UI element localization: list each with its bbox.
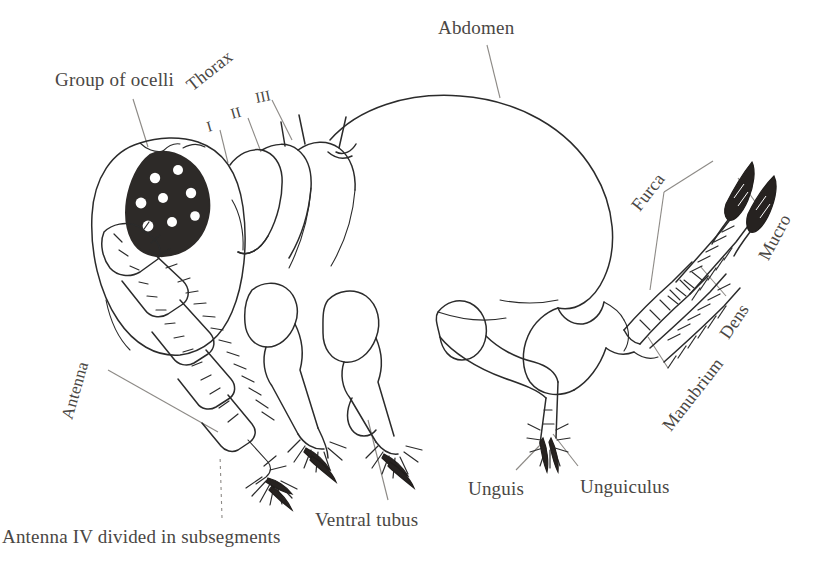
leg-2 [323,291,422,488]
label-thorax-segment-3: III [254,88,272,106]
ocellus [158,193,168,203]
ocelli-patch [126,152,209,256]
antenna [102,222,297,510]
figure-canvas: .ink { fill: none; stroke: #2b2b2b; stro… [0,0,835,561]
leader-thorax-1 [220,130,228,163]
ocellus [167,217,177,227]
leg-1 [245,283,346,482]
ocellus [150,173,160,183]
thorax [230,115,356,268]
leg-3 [436,301,570,472]
label-group-of-ocelli: Group of ocelli [55,70,174,89]
leader-furca-2 [650,192,664,290]
label-ventral-tubus: Ventral tubus [315,510,418,529]
label-antenna-iv: Antenna IV divided in subsegments [2,527,281,546]
ocellus [186,188,196,198]
ocellus [173,165,183,175]
leader-antenna-iv [220,455,222,518]
ocellus [136,198,147,209]
leader-unguis [516,443,542,470]
label-unguiculus: Unguiculus [580,477,670,496]
leader-lines [108,45,764,518]
leader-abdomen [487,45,500,98]
leader-thorax-3 [272,100,292,140]
leader-ocelli [133,99,148,147]
leader-thorax-2 [248,118,261,152]
label-unguis: Unguis [468,479,524,498]
leader-furca [664,161,713,192]
ocellus [190,211,200,221]
label-abdomen: Abdomen [438,18,514,37]
